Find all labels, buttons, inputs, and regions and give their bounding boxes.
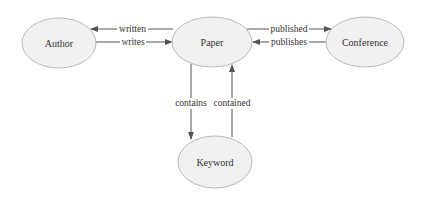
edge-publishes: publishes [253,37,328,47]
edge-label-writes: writes [121,37,145,47]
edge-label-published: published [271,24,308,34]
edge-label-publishes: publishes [271,37,307,47]
node-paper: Paper [172,17,252,67]
edge-written: written [91,24,173,34]
node-keyword: Keyword [178,136,252,188]
node-label-conference: Conference [342,37,389,48]
edge-label-written: written [119,24,146,34]
edge-writes: writes [96,37,172,47]
edge-contained: contained [213,65,251,137]
edge-contains: contains [175,64,207,139]
node-label-paper: Paper [201,37,224,48]
edge-published: published [247,24,331,34]
node-label-author: Author [45,38,74,49]
node-label-keyword: Keyword [196,157,233,168]
node-author: Author [22,18,96,68]
entity-relationship-diagram: written writes published publishes conta… [0,0,426,200]
edge-label-contained: contained [214,98,251,108]
edge-label-contains: contains [175,98,207,108]
node-conference: Conference [326,17,404,67]
